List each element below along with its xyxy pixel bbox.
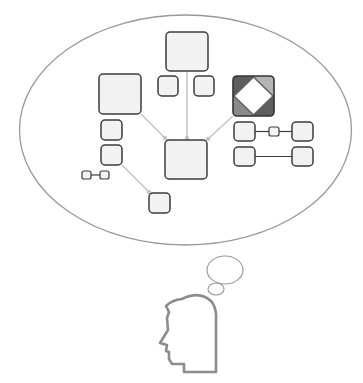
node-box-right-row1-left [234, 122, 255, 141]
diagram-canvas [0, 0, 363, 383]
mini-node-left-mini-a [82, 171, 91, 179]
trail-bubbles [207, 256, 243, 295]
node-box-left-large [99, 74, 141, 114]
connector-arrowhead [206, 137, 210, 141]
node-box-right-row2-left [234, 147, 255, 166]
node-box-right-row2-right [292, 147, 313, 166]
mini-node-right-row1-mini [269, 127, 279, 136]
node-box-center-large [165, 140, 207, 179]
node-box-top-small-left [158, 76, 178, 96]
trail-bubble-0 [207, 256, 243, 284]
connector-arrowhead [163, 136, 167, 140]
node-box-bottom-small [149, 193, 170, 213]
node-box-right-row1-right [292, 122, 313, 141]
diamond-icon [233, 76, 274, 116]
thought-diagram [0, 0, 363, 383]
node-box-top-large [166, 32, 208, 71]
node-box-left-small-1 [101, 120, 122, 140]
connector-line [141, 114, 165, 138]
diamond-box [233, 76, 274, 116]
head-profile-icon [160, 295, 216, 372]
node-box-left-small-2 [101, 145, 122, 165]
connector-line [208, 116, 233, 139]
mini-node-left-mini-b [100, 171, 109, 179]
node-box-top-small-right [194, 76, 214, 96]
head-outline [160, 295, 216, 372]
nodes [82, 32, 313, 213]
trail-bubble-1 [208, 283, 224, 295]
connector-line [122, 165, 149, 192]
